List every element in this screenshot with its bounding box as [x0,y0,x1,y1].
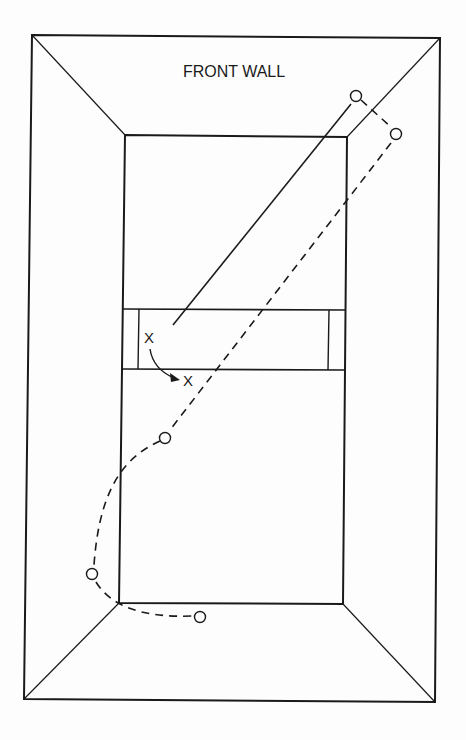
player-start-marker: X [144,329,154,346]
court-diagram: FRONT WALL X X [0,0,466,740]
player-end-marker: X [183,372,193,389]
front-wall-label: FRONT WALL [183,63,285,80]
ball-bounce-icon [195,612,206,623]
short-line-bottom [122,369,344,370]
corner-line-top-left [32,35,125,135]
arrowhead-icon [170,373,180,382]
ball-bounce-icon [391,129,402,140]
corner-line-bottom-left [24,603,119,699]
short-line-top [123,309,345,310]
service-box-left [138,309,139,369]
corner-line-bottom-right [343,604,435,702]
ball-bounce-icon [87,569,98,580]
service-box-right [328,310,329,370]
corner-line-top-right [347,38,440,137]
ball-bounce-icon [160,433,171,444]
ball-bounce-icon [351,91,362,102]
